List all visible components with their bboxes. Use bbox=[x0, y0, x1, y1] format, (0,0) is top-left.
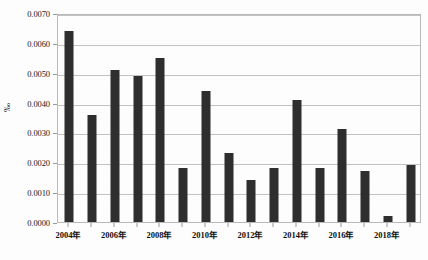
y-axis-tick-label: 0.0060 bbox=[27, 39, 50, 49]
bar bbox=[292, 100, 301, 222]
x-axis-tick-mark bbox=[273, 223, 274, 227]
x-axis-tick-label: 2018年 bbox=[374, 228, 400, 240]
y-axis-tick-label: 0.0010 bbox=[27, 188, 50, 198]
y-axis-tick-label: 0.0040 bbox=[27, 99, 50, 109]
y-axis-tick-label: 0.0000 bbox=[27, 218, 50, 228]
bar bbox=[133, 76, 142, 222]
x-axis-tick-label: 2014年 bbox=[283, 228, 309, 240]
x-axis-tick-mark bbox=[136, 223, 137, 227]
bar bbox=[224, 153, 233, 222]
y-axis-tick-label: 0.0070 bbox=[27, 9, 50, 19]
x-axis-tick-mark bbox=[227, 223, 228, 227]
x-axis-tick-mark bbox=[68, 223, 69, 227]
x-axis-tick-mark bbox=[91, 223, 92, 227]
y-axis-tick-label: 0.0050 bbox=[27, 69, 50, 79]
x-axis-tick-mark bbox=[386, 223, 387, 227]
x-axis-tick-mark bbox=[182, 223, 183, 227]
bar bbox=[247, 180, 256, 222]
x-axis-tick-mark bbox=[295, 223, 296, 227]
bar bbox=[383, 216, 392, 222]
x-axis-tick-marks bbox=[57, 223, 421, 227]
x-axis-tick-label: 2012年 bbox=[237, 228, 263, 240]
x-axis-tick-mark bbox=[364, 223, 365, 227]
plot-area bbox=[57, 14, 421, 223]
x-axis-tick-label: 2008年 bbox=[146, 228, 172, 240]
x-axis-tick-mark bbox=[250, 223, 251, 227]
bar bbox=[201, 91, 210, 222]
bar bbox=[88, 115, 97, 222]
x-axis-tick-label: 2006年 bbox=[101, 228, 127, 240]
bar bbox=[406, 165, 415, 222]
x-axis-tick-mark bbox=[409, 223, 410, 227]
y-axis-tick-labels: 0.00000.00100.00200.00300.00400.00500.00… bbox=[0, 14, 57, 223]
x-axis-tick-label: 2016年 bbox=[328, 228, 354, 240]
bar-series bbox=[58, 15, 420, 222]
bar bbox=[65, 31, 74, 222]
x-axis-tick-mark bbox=[113, 223, 114, 227]
bar bbox=[156, 58, 165, 222]
x-axis-tick-mark bbox=[159, 223, 160, 227]
bar bbox=[361, 171, 370, 222]
x-axis-tick-label: 2010年 bbox=[192, 228, 218, 240]
bar bbox=[179, 168, 188, 222]
x-axis-tick-mark bbox=[318, 223, 319, 227]
bar bbox=[338, 129, 347, 222]
x-axis-tick-mark bbox=[204, 223, 205, 227]
bar-chart-figure: ‰ 0.00000.00100.00200.00300.00400.00500.… bbox=[0, 0, 428, 260]
bar bbox=[315, 168, 324, 222]
bar bbox=[270, 168, 279, 222]
x-axis-tick-mark bbox=[341, 223, 342, 227]
bar bbox=[110, 70, 119, 222]
x-axis-tick-labels: 2004年2006年2008年2010年2012年2014年2016年2018年 bbox=[57, 228, 421, 248]
x-axis-tick-label: 2004年 bbox=[55, 228, 81, 240]
y-axis-tick-label: 0.0020 bbox=[27, 158, 50, 168]
y-axis-tick-label: 0.0030 bbox=[27, 128, 50, 138]
